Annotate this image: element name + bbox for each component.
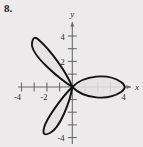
lower-left-petal — [43, 87, 72, 134]
rose-curve-plot: -4 -2 4 4 2 -4 x y — [0, 0, 143, 147]
y-tick-label-pos4: 4 — [60, 32, 65, 42]
y-tick-label-pos2: 2 — [60, 57, 64, 67]
x-axis-arrow-icon — [127, 85, 132, 89]
x-tick-label-pos4: 4 — [121, 92, 126, 102]
rose-curve — [32, 38, 125, 135]
x-tick-label-neg2: -2 — [40, 92, 47, 102]
y-tick-label-neg4: -4 — [57, 133, 65, 143]
right-petal — [72, 76, 124, 97]
upper-left-petal — [32, 38, 72, 87]
y-axis-arrow-icon — [70, 22, 74, 27]
x-axis-label: x — [134, 82, 139, 92]
x-tick-label-neg4: -4 — [14, 92, 22, 102]
polar-rose-figure: -4 -2 4 4 2 -4 x y — [0, 0, 143, 147]
y-axis-label: y — [69, 9, 74, 19]
